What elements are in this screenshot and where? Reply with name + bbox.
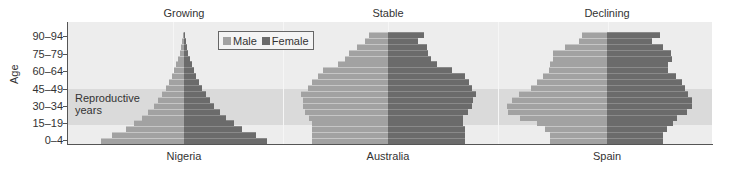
female-bar xyxy=(607,103,692,109)
male-bar xyxy=(323,67,388,73)
male-bar xyxy=(162,91,184,97)
male-bar xyxy=(553,50,607,56)
female-bar xyxy=(184,56,190,62)
male-bar xyxy=(365,38,388,44)
country-label-spain: Spain xyxy=(547,150,667,162)
female-bar xyxy=(607,109,687,115)
female-bar xyxy=(184,85,202,91)
panel-title-growing: Growing xyxy=(124,7,244,19)
tick-mark xyxy=(63,54,68,55)
male-bar xyxy=(148,109,184,115)
male-bar xyxy=(174,67,184,73)
legend-item-female: Female xyxy=(262,35,309,47)
legend: Male Female xyxy=(218,31,314,50)
female-bar xyxy=(184,91,206,97)
tick-label: 45–49 xyxy=(32,83,63,95)
male-bar xyxy=(345,56,388,62)
x-axis xyxy=(67,144,713,145)
male-bar xyxy=(112,132,184,138)
female-bar xyxy=(388,50,428,56)
female-bar xyxy=(607,97,692,103)
country-label-nigeria: Nigeria xyxy=(124,150,244,162)
legend-male-label: Male xyxy=(233,35,257,47)
female-bar xyxy=(184,103,214,109)
male-bar xyxy=(549,67,607,73)
female-bar xyxy=(607,132,663,138)
female-bar xyxy=(184,44,187,50)
female-bar xyxy=(607,67,668,73)
female-bar xyxy=(184,73,196,79)
female-bar xyxy=(184,67,194,73)
male-bar xyxy=(303,103,388,109)
female-bar xyxy=(184,126,242,132)
female-bar xyxy=(607,126,667,132)
country-label-australia: Australia xyxy=(328,150,448,162)
tick-mark xyxy=(63,89,68,90)
male-bar xyxy=(369,32,388,38)
panel-title-stable: Stable xyxy=(328,7,448,19)
tick-mark xyxy=(63,71,68,72)
female-bar xyxy=(388,56,431,62)
male-bar xyxy=(172,73,184,79)
female-bar xyxy=(607,115,677,121)
male-bar xyxy=(565,44,607,50)
male-bar xyxy=(545,126,607,132)
male-swatch-icon xyxy=(223,37,231,45)
male-bar xyxy=(301,91,388,97)
female-bar xyxy=(388,38,418,44)
tick-label: 0–4 xyxy=(45,134,63,146)
female-bar xyxy=(607,73,676,79)
female-bar xyxy=(184,97,210,103)
male-bar xyxy=(519,91,607,97)
female-bar xyxy=(388,79,469,85)
tick-label: 75–79 xyxy=(32,48,63,60)
female-bar xyxy=(607,91,688,97)
male-bar xyxy=(303,97,388,103)
male-bar xyxy=(508,109,607,115)
y-axis-label: Age xyxy=(8,64,20,84)
female-bar xyxy=(388,103,472,109)
male-bar xyxy=(318,73,388,79)
female-bar xyxy=(388,109,468,115)
male-bar xyxy=(582,32,607,38)
male-bar xyxy=(553,56,607,62)
male-bar xyxy=(169,79,184,85)
male-bar xyxy=(512,97,607,103)
male-bar xyxy=(309,115,388,121)
female-bar xyxy=(388,126,465,132)
panel-title-declining: Declining xyxy=(547,7,667,19)
female-bar xyxy=(607,79,682,85)
legend-item-male: Male xyxy=(223,35,257,47)
female-bar xyxy=(388,73,465,79)
female-bar xyxy=(607,32,660,38)
female-bar xyxy=(388,115,463,121)
tick-mark xyxy=(63,140,68,141)
female-bar xyxy=(607,50,671,56)
male-bar xyxy=(349,50,388,56)
male-bar xyxy=(531,85,607,91)
male-bar xyxy=(543,73,607,79)
tick-label: 30–34 xyxy=(32,100,63,112)
female-bar xyxy=(388,67,452,73)
male-bar xyxy=(507,103,607,109)
male-bar xyxy=(158,97,184,103)
tick-mark xyxy=(63,36,68,37)
tick-label: 15–19 xyxy=(32,117,63,129)
female-bar xyxy=(184,50,188,56)
female-bar xyxy=(184,132,256,138)
female-bar xyxy=(388,97,473,103)
female-bar xyxy=(388,91,476,97)
male-bar xyxy=(166,85,184,91)
male-bar xyxy=(305,109,388,115)
female-bar xyxy=(607,38,652,44)
female-bar xyxy=(388,44,427,50)
tick-label: 60–64 xyxy=(32,65,63,77)
male-bar xyxy=(579,38,607,44)
tick-mark xyxy=(63,123,68,124)
male-bar xyxy=(550,132,607,138)
male-bar xyxy=(312,126,388,132)
female-bar xyxy=(184,115,226,121)
male-bar xyxy=(312,132,388,138)
male-bar xyxy=(537,79,607,85)
y-axis xyxy=(67,22,68,145)
